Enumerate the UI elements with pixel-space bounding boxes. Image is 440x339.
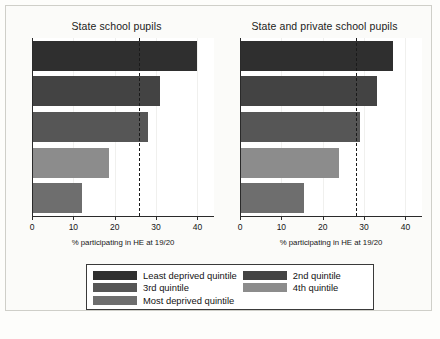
gridline (405, 38, 406, 216)
bar (32, 41, 197, 71)
x-tick (405, 216, 406, 220)
legend-swatch (243, 283, 287, 292)
x-tick-label: 0 (30, 222, 35, 232)
x-axis-left: 010203040 (32, 216, 214, 217)
plot-area-right (240, 38, 422, 216)
x-tick-label: 10 (69, 222, 78, 232)
legend-item[interactable]: Least deprived quintile (93, 269, 237, 282)
legend-swatch (93, 271, 137, 280)
x-tick (323, 216, 324, 220)
reference-line (139, 38, 140, 216)
bar (32, 183, 82, 213)
legend-label: 4th quintile (293, 282, 338, 293)
y-axis-left (32, 38, 33, 217)
y-axis-right (240, 38, 241, 217)
legend-label: Least deprived quintile (143, 270, 237, 281)
figure-canvas: State school pupils 010203040 % particip… (0, 0, 440, 339)
gridline (197, 38, 198, 216)
x-tick (240, 216, 241, 220)
x-tick-label: 20 (110, 222, 119, 232)
x-axis-right: 010203040 (240, 216, 422, 217)
legend-swatch (93, 283, 137, 292)
legend-swatch (243, 271, 287, 280)
x-tick-label: 40 (401, 222, 410, 232)
bar (240, 112, 360, 142)
plot-area-left (32, 38, 214, 216)
legend-label: Most deprived quintile (143, 295, 234, 306)
legend-item[interactable]: Most deprived quintile (93, 294, 237, 307)
panel-title-right: State and private school pupils (222, 20, 427, 32)
bar (240, 41, 393, 71)
panel-state-and-private-school: State and private school pupils 01020304… (222, 6, 427, 266)
panel-state-school: State school pupils 010203040 % particip… (14, 6, 219, 266)
x-axis-label-left: % participating in HE at 19/20 (32, 238, 214, 247)
chart-legend: Least deprived quintile2nd quintile3rd q… (86, 264, 374, 310)
x-tick-label: 30 (359, 222, 368, 232)
reference-line (356, 38, 357, 216)
legend-item[interactable]: 4th quintile (243, 282, 367, 295)
x-tick-label: 30 (151, 222, 160, 232)
bar (32, 148, 109, 178)
x-tick-label: 10 (277, 222, 286, 232)
x-tick-label: 0 (238, 222, 243, 232)
bar (32, 76, 160, 106)
x-axis-label-right: % participating in HE at 19/20 (240, 238, 422, 247)
x-tick (197, 216, 198, 220)
bar (240, 183, 304, 213)
x-tick (364, 216, 365, 220)
x-tick (32, 216, 33, 220)
chart-frame: State school pupils 010203040 % particip… (5, 5, 432, 311)
legend-item[interactable]: 2nd quintile (243, 269, 367, 282)
x-tick (281, 216, 282, 220)
x-tick-label: 40 (193, 222, 202, 232)
legend-label: 3rd quintile (143, 282, 189, 293)
bar (240, 148, 339, 178)
x-tick (115, 216, 116, 220)
legend-swatch (93, 296, 137, 305)
x-tick (73, 216, 74, 220)
panel-title-left: State school pupils (14, 20, 219, 32)
x-tick (156, 216, 157, 220)
x-tick-label: 20 (318, 222, 327, 232)
legend-label: 2nd quintile (293, 270, 341, 281)
legend-item[interactable]: 3rd quintile (93, 282, 237, 295)
bar (32, 112, 148, 142)
